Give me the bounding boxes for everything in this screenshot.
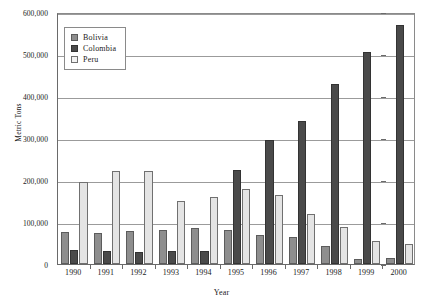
x-tick-label: 1998 <box>325 268 341 277</box>
bar-bolivia-1998 <box>321 246 329 264</box>
y-tick-label: 0 <box>44 261 48 270</box>
bar-bolivia-2000 <box>386 258 394 264</box>
bar-peru-1999 <box>372 241 380 264</box>
bar-colombia-1996 <box>265 140 273 264</box>
bar-peru-1996 <box>275 195 283 264</box>
bar-bolivia-1994 <box>191 228 199 264</box>
gridline <box>58 14 414 15</box>
x-tick-mark <box>317 265 318 269</box>
x-tick-mark <box>122 265 123 269</box>
bar-colombia-1990 <box>70 250 78 264</box>
legend-swatch-bolivia-icon <box>71 34 78 41</box>
x-tick-label: 1995 <box>228 268 244 277</box>
y-tick-label: 600,000 <box>23 9 48 18</box>
x-tick-label: 2000 <box>391 268 407 277</box>
legend-label: Colombia <box>83 44 116 53</box>
y-tick-mark <box>381 55 386 56</box>
bar-colombia-1991 <box>103 251 111 264</box>
y-tick-mark <box>381 223 386 224</box>
y-tick-mark <box>381 139 386 140</box>
legend-item-colombia: Colombia <box>71 43 116 54</box>
bar-peru-1990 <box>79 182 87 264</box>
x-tick-label: 1993 <box>163 268 179 277</box>
bar-bolivia-1991 <box>94 233 102 264</box>
y-tick-label: 500,000 <box>23 51 48 60</box>
x-tick-label: 1997 <box>293 268 309 277</box>
bar-colombia-1999 <box>363 52 371 264</box>
bar-colombia-1998 <box>331 84 339 264</box>
bar-peru-1992 <box>144 171 152 264</box>
y-tick-label: 400,000 <box>23 93 48 102</box>
chart-legend: BoliviaColombiaPeru <box>64 27 126 70</box>
x-tick-label: 1994 <box>195 268 211 277</box>
bar-colombia-1994 <box>200 251 208 264</box>
y-tick-mark <box>381 97 386 98</box>
bar-bolivia-1996 <box>256 235 264 264</box>
bar-colombia-1997 <box>298 121 306 264</box>
bar-peru-1998 <box>340 227 348 264</box>
legend-item-peru: Peru <box>71 54 116 65</box>
x-tick-mark <box>220 265 221 269</box>
bar-peru-1995 <box>242 189 250 264</box>
y-tick-mark <box>381 13 386 14</box>
x-tick-mark <box>382 265 383 269</box>
y-tick-label: 100,000 <box>23 219 48 228</box>
bar-colombia-1992 <box>135 252 143 264</box>
y-tick-label: 200,000 <box>23 177 48 186</box>
bar-colombia-2000 <box>396 25 404 264</box>
gridline <box>58 98 414 99</box>
bar-colombia-1995 <box>233 170 241 265</box>
x-tick-mark <box>187 265 188 269</box>
bar-peru-1994 <box>210 197 218 264</box>
x-tick-mark <box>252 265 253 269</box>
x-tick-label: 1991 <box>98 268 114 277</box>
gridline <box>58 140 414 141</box>
legend-item-bolivia: Bolivia <box>71 32 116 43</box>
bar-bolivia-1993 <box>159 230 167 264</box>
x-tick-label: 1992 <box>130 268 146 277</box>
x-axis-title: Year <box>0 288 443 297</box>
legend-label: Bolivia <box>83 33 108 42</box>
y-axis-tick-labels: 0100,000200,000300,000400,000500,000600,… <box>0 0 57 308</box>
legend-swatch-peru-icon <box>71 56 78 63</box>
x-tick-label: 1990 <box>65 268 81 277</box>
bar-peru-1993 <box>177 201 185 264</box>
y-tick-mark <box>381 181 386 182</box>
legend-label: Peru <box>83 55 98 64</box>
bar-peru-2000 <box>405 244 413 264</box>
x-tick-mark <box>90 265 91 269</box>
bar-colombia-1993 <box>168 251 176 264</box>
bar-bolivia-1999 <box>354 259 362 264</box>
bar-peru-1991 <box>112 171 120 264</box>
x-tick-mark <box>350 265 351 269</box>
x-tick-mark <box>155 265 156 269</box>
y-tick-label: 300,000 <box>23 135 48 144</box>
x-tick-label: 1996 <box>260 268 276 277</box>
bar-peru-1997 <box>307 214 315 264</box>
x-tick-mark <box>285 265 286 269</box>
bar-bolivia-1997 <box>289 237 297 264</box>
bar-chart: Metric Tons 0100,000200,000300,000400,00… <box>0 0 443 308</box>
x-tick-label: 1999 <box>358 268 374 277</box>
legend-swatch-colombia-icon <box>71 45 78 52</box>
x-axis-tick-labels: 1990199119921993199419951996199719981999… <box>57 268 415 290</box>
bar-bolivia-1995 <box>224 230 232 264</box>
bar-bolivia-1990 <box>61 232 69 264</box>
bar-bolivia-1992 <box>126 231 134 264</box>
